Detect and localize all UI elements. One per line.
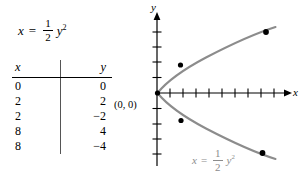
cell-y: −2: [60, 109, 112, 124]
equation-lhs: x: [18, 24, 24, 37]
curve-label-equals-sign: =: [201, 155, 207, 166]
cell-x: 2: [12, 94, 60, 109]
cell-x: 8: [12, 139, 60, 154]
curve-label-variable: y2: [227, 155, 235, 166]
y-axis: [154, 12, 161, 166]
curve-label-lhs: x: [192, 155, 197, 166]
equation-fraction-numerator: 1: [43, 18, 53, 29]
curve-label-variable-exponent: 2: [232, 154, 235, 161]
cell-x: 0: [12, 78, 60, 95]
equation-fraction-denominator: 2: [43, 32, 53, 43]
x-axis: [157, 90, 292, 97]
cell-x: 2: [12, 109, 60, 124]
table-row: 2 2: [12, 94, 112, 109]
graph-panel: y x (0, 0) x = 1 2 y2: [150, 0, 306, 175]
table-row: 2 −2: [12, 109, 112, 124]
data-point-2-2: [178, 62, 183, 67]
equation-equals-sign: =: [29, 24, 36, 37]
curve-label-fraction: 1 2: [213, 148, 223, 174]
table-row: 8 −4: [12, 139, 112, 154]
data-point-8-neg4: [260, 150, 266, 156]
curve-label-fraction-numerator: 1: [213, 148, 223, 159]
curve-equation-label: x = 1 2 y2: [192, 148, 235, 174]
cell-y: −4: [60, 139, 112, 154]
data-point-2-neg2: [178, 118, 183, 123]
y-axis-label: y: [151, 1, 156, 13]
column-header-y: y: [60, 60, 112, 78]
equation-x-equals-half-y-squared: x = 1 2 y2: [18, 18, 66, 44]
curve-label-fraction-denominator: 2: [213, 162, 223, 173]
cell-y: 2: [60, 94, 112, 109]
cell-x: 8: [12, 124, 60, 139]
origin-point-label: (0, 0): [114, 99, 137, 110]
cell-y: 0: [60, 78, 112, 95]
value-table-head: x y: [12, 60, 112, 78]
data-point-8-4: [263, 29, 269, 35]
table-row: 0 0: [12, 78, 112, 95]
value-table: x y 0 0 2 2 2 −2: [12, 60, 112, 154]
equation-variable-exponent: 2: [62, 23, 66, 32]
data-point-0-0: [155, 90, 160, 95]
value-table-grid: x y 0 0 2 2 2 −2: [12, 60, 112, 154]
left-panel: x = 1 2 y2 x y 0 0: [0, 0, 150, 175]
column-header-x: x: [12, 60, 60, 78]
table-header-row: x y: [12, 60, 112, 78]
equation-fraction: 1 2: [43, 18, 53, 44]
table-row: 8 4: [12, 124, 112, 139]
value-table-body: 0 0 2 2 2 −2 8 4: [12, 78, 112, 155]
x-axis-label: x: [293, 86, 298, 98]
equation-variable: y2: [57, 24, 67, 37]
figure-container: x = 1 2 y2 x y 0 0: [0, 0, 306, 175]
cell-y: 4: [60, 124, 112, 139]
